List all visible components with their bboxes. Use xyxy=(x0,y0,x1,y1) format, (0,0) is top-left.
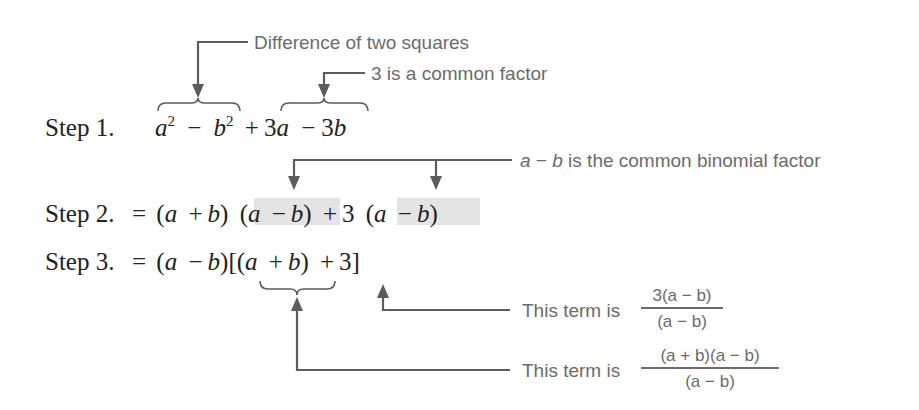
fraction-bar xyxy=(641,307,723,309)
fraction-bar xyxy=(641,367,779,369)
step-3-label: Step 3. xyxy=(45,249,114,274)
arrow-difference-of-squares-icon xyxy=(192,42,248,98)
factoring-by-grouping-figure: Difference of two squares 3 is a common … xyxy=(0,0,919,410)
label-common-factor: 3 is a common factor xyxy=(371,64,547,83)
var-a: a xyxy=(520,150,531,171)
minus-sign: − xyxy=(536,150,547,171)
arrow-term-three-icon xyxy=(377,284,510,310)
step-1-expression: a2 − b2 +3a −3b xyxy=(155,115,346,140)
fraction-denominator: (a − b) xyxy=(641,373,779,390)
arrow-binomial-factor-icon xyxy=(288,160,512,190)
arrow-term-sum-icon xyxy=(291,297,510,370)
label-binomial-factor: a − b is the common binomial factor xyxy=(520,151,821,170)
overbrace-common-factor-icon xyxy=(281,98,368,111)
fraction-term-sum: (a + b)(a − b) (a − b) xyxy=(641,347,779,390)
step-2-expression: = (a +b) (a −b) +3 (a −b) xyxy=(132,201,438,226)
fraction-numerator: (a + b)(a − b) xyxy=(641,347,779,364)
step-2-label: Step 2. xyxy=(45,201,114,226)
overbrace-squares-icon xyxy=(158,98,240,111)
var-b: b xyxy=(552,150,563,171)
label-difference-of-squares: Difference of two squares xyxy=(254,33,469,52)
arrow-common-factor-icon xyxy=(318,73,365,98)
step-1-label: Step 1. xyxy=(45,115,114,140)
underbrace-sum-icon xyxy=(260,281,335,295)
fraction-term-three: 3(a − b) (a − b) xyxy=(641,287,723,330)
step-3-expression: = (a −b)[(a +b) +3] xyxy=(132,249,360,274)
binomial-factor-text: is the common binomial factor xyxy=(568,150,820,171)
fraction-denominator: (a − b) xyxy=(641,313,723,330)
fraction-numerator: 3(a − b) xyxy=(641,287,723,304)
label-term-three: This term is xyxy=(522,301,620,320)
label-term-sum: This term is xyxy=(522,361,620,380)
